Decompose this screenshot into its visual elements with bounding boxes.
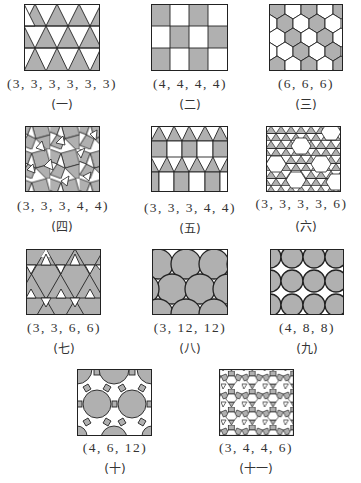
tiling-panel-9 [270,249,344,315]
tiling-notation-10: (4, 6, 12) [65,440,165,456]
tiling-panel-7 [26,249,101,315]
tiling-index-1: (一) [37,95,87,112]
tiling-panel-10 [77,369,152,436]
tiling-index-5: (五) [165,219,215,236]
tiling-panel-3 [269,4,343,71]
tiling-index-6: (六) [281,217,331,234]
tiling-notation-2: (4, 4, 4, 4) [140,76,240,92]
tiling-notation-1: (3, 3, 3, 3, 3, 3) [0,76,124,92]
trihexagonal-tiling-image [26,249,101,315]
square-tiling-image [151,4,228,71]
tiling-panel-2 [151,4,228,71]
tiling-index-2: (二) [165,95,215,112]
tiling-notation-6: (3, 3, 3, 3, 6) [242,196,361,212]
tiling-notation-9: (4, 8, 8) [257,320,357,336]
snub-square-tiling-image [25,126,100,192]
tiling-panel-4 [25,126,100,192]
rhombitrihexagonal-tiling-image [219,369,294,436]
tiling-notation-8: (3, 12, 12) [140,320,240,336]
tiling-index-4: (四) [37,217,87,234]
triangle-tiling-image [24,4,100,71]
truncated-hexagonal-tiling-image [152,249,228,315]
elongated-triangular-tiling-image [151,126,228,192]
tiling-panel-11 [219,369,294,436]
truncated-trihexagonal-tiling-image [77,369,152,436]
tiling-notation-11: (3, 4, 4, 6) [206,440,306,456]
tiling-panel-1 [24,4,100,71]
tiling-index-3: (三) [281,95,331,112]
tiling-index-8: (八) [165,339,215,356]
tiling-index-7: (七) [39,339,89,356]
snub-hexagonal-tiling-image [266,126,341,192]
tiling-panel-5 [151,126,228,192]
tiling-panel-6 [266,126,341,192]
tiling-notation-7: (3, 3, 6, 6) [14,320,114,336]
tiling-notation-5: (3, 3, 3, 4, 4) [130,200,250,216]
hexagon-tiling-image [269,4,343,71]
tiling-index-10: (十) [90,459,140,476]
truncated-square-tiling-image [270,249,344,315]
tiling-index-9: (九) [282,339,332,356]
tiling-notation-3: (6, 6, 6) [256,76,356,92]
tiling-notation-4: (3, 3, 3, 4, 4) [6,198,120,214]
tiling-panel-8 [152,249,228,315]
tiling-index-11: (十一) [231,459,281,476]
